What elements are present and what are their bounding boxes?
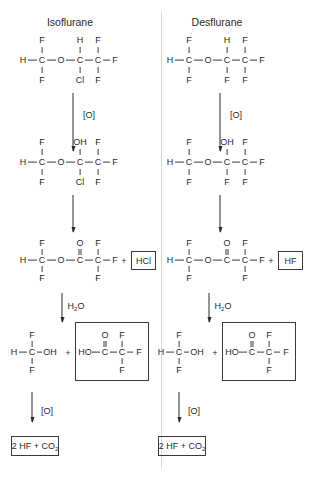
atom: C xyxy=(224,157,231,167)
reagent-label: H2O xyxy=(215,301,232,311)
bond xyxy=(227,47,228,53)
bond xyxy=(28,60,37,61)
atom: F xyxy=(259,255,265,265)
bond xyxy=(250,260,257,261)
atom: O xyxy=(248,330,255,340)
bond xyxy=(110,352,117,353)
bond xyxy=(245,47,246,53)
atom: Cl xyxy=(76,177,85,187)
atom: F xyxy=(242,137,248,147)
bond xyxy=(66,260,75,261)
bond xyxy=(28,260,37,261)
atom: C xyxy=(39,255,46,265)
atom: F xyxy=(29,365,35,375)
atom: F xyxy=(266,330,272,340)
atom: H xyxy=(20,55,27,65)
atom: F xyxy=(119,330,125,340)
bond xyxy=(103,60,110,61)
atom: O xyxy=(76,238,83,248)
bond xyxy=(194,260,203,261)
bond xyxy=(127,352,133,353)
final-products-label: 2 HF + CO2 xyxy=(12,441,59,451)
bond xyxy=(175,260,184,261)
bond xyxy=(42,169,43,175)
atom: F xyxy=(119,365,125,375)
bond xyxy=(245,149,246,155)
bond xyxy=(42,149,43,155)
bond xyxy=(189,266,190,272)
plus-sign: + xyxy=(212,348,217,358)
atom: C xyxy=(242,55,249,65)
atom: C xyxy=(186,157,193,167)
bond xyxy=(47,162,56,163)
atom: OH xyxy=(43,347,57,357)
column-title: Desflurane xyxy=(192,17,243,27)
atom: OH xyxy=(220,137,234,147)
atom: H xyxy=(167,55,174,65)
isoflurane-column: Isoflurane F H F H C O C C F F Cl F xyxy=(0,0,166,480)
atom: C xyxy=(119,347,126,357)
atom: F xyxy=(224,177,230,187)
byproduct-label: HF xyxy=(285,256,297,266)
atom: F xyxy=(95,238,101,248)
bond xyxy=(98,149,99,155)
bond xyxy=(213,260,222,261)
bond xyxy=(85,162,93,163)
reaction-arrow xyxy=(62,293,63,322)
bond xyxy=(175,162,184,163)
plus-sign: + xyxy=(268,256,273,266)
atom: F xyxy=(95,137,101,147)
bond xyxy=(274,352,280,353)
reagent-label: H2O xyxy=(68,301,85,311)
atom: C xyxy=(242,255,249,265)
atom: C xyxy=(39,55,46,65)
atom: F xyxy=(186,238,192,248)
final-products-label: 2 HF + CO2 xyxy=(159,441,206,451)
atom: F xyxy=(242,35,248,45)
bond xyxy=(245,67,246,73)
bond xyxy=(28,162,37,163)
atom: OH xyxy=(73,137,87,147)
atom: C xyxy=(266,347,273,357)
bond xyxy=(80,149,81,155)
bond xyxy=(269,358,270,364)
atom: F xyxy=(186,75,192,85)
atom: F xyxy=(259,157,265,167)
bond xyxy=(189,149,190,155)
atom: F xyxy=(39,35,45,45)
bond xyxy=(189,47,190,53)
reaction-arrow xyxy=(32,392,33,422)
bond xyxy=(66,60,75,61)
atom: C xyxy=(95,157,102,167)
atom: C xyxy=(242,157,249,167)
bond xyxy=(32,358,33,364)
bond xyxy=(179,358,180,364)
bond xyxy=(66,162,75,163)
atom: C xyxy=(95,55,102,65)
atom: C xyxy=(77,255,84,265)
bond xyxy=(103,260,110,261)
bond xyxy=(227,149,228,155)
atom: F xyxy=(242,273,248,283)
atom: F xyxy=(186,273,192,283)
bond xyxy=(175,60,184,61)
atom: F xyxy=(242,177,248,187)
atom: H xyxy=(20,157,27,167)
bond xyxy=(213,162,222,163)
atom: O xyxy=(57,157,64,167)
reagent-label: [O] xyxy=(230,110,242,120)
atom: H xyxy=(20,255,27,265)
atom: F xyxy=(95,177,101,187)
atom: F xyxy=(176,330,182,340)
atom: H xyxy=(77,35,84,45)
atom: F xyxy=(39,177,45,187)
plus-sign: + xyxy=(65,348,70,358)
reagent-label: [O] xyxy=(41,406,53,416)
bond xyxy=(85,260,93,261)
bond xyxy=(245,266,246,272)
bond xyxy=(92,352,100,353)
bond xyxy=(257,352,264,353)
atom: H xyxy=(167,157,174,167)
bond xyxy=(98,266,99,272)
atom: Cl xyxy=(76,75,85,85)
